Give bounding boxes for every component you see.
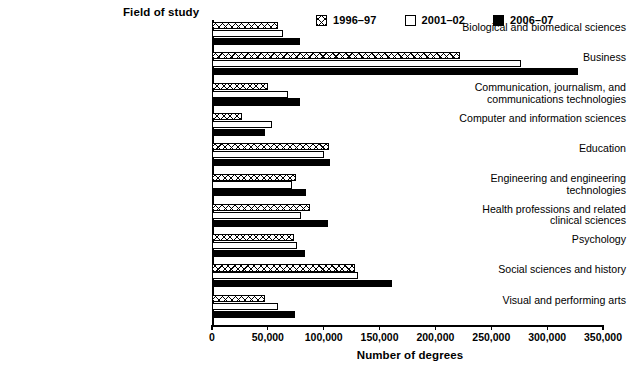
bar-4-1[interactable]: [212, 151, 324, 158]
bar-7-0[interactable]: [212, 234, 294, 241]
category-label-2: Communication, journalism, and communica…: [424, 82, 632, 105]
x-tick-6: [547, 325, 548, 330]
bar-3-2[interactable]: [212, 129, 265, 136]
x-tick-0: [211, 325, 212, 330]
bar-6-1[interactable]: [212, 212, 301, 219]
bar-9-1[interactable]: [212, 303, 278, 310]
x-tick-label-0: 0: [209, 331, 215, 343]
bar-3-0[interactable]: [212, 113, 242, 120]
x-tick-label-4: 200,000: [416, 331, 454, 343]
bar-5-0[interactable]: [212, 174, 296, 181]
bar-8-0[interactable]: [212, 264, 355, 271]
category-label-9: Visual and performing arts: [424, 295, 632, 307]
bar-9-0[interactable]: [212, 295, 265, 302]
bar-7-2[interactable]: [212, 250, 305, 257]
bar-5-1[interactable]: [212, 181, 292, 188]
bar-4-0[interactable]: [212, 143, 329, 150]
bar-4-2[interactable]: [212, 159, 330, 166]
x-tick-label-6: 300,000: [528, 331, 566, 343]
bar-1-1[interactable]: [212, 60, 521, 67]
y-axis-title: Field of study: [123, 6, 199, 18]
category-label-8: Social sciences and history: [424, 264, 632, 276]
category-label-0: Biological and biomedical sciences: [424, 22, 632, 34]
bar-0-2[interactable]: [212, 38, 300, 45]
legend-item-1996-97[interactable]: 1996–97: [316, 14, 377, 26]
bar-6-2[interactable]: [212, 220, 328, 227]
legend-swatch-crosshatch-icon: [316, 15, 327, 26]
bar-0-1[interactable]: [212, 30, 283, 37]
x-tick-label-1: 50,000: [252, 331, 284, 343]
category-label-5: Engineering and engineering technologies: [424, 173, 632, 196]
x-axis-line: [212, 325, 604, 327]
bar-3-1[interactable]: [212, 121, 272, 128]
bar-2-2[interactable]: [212, 98, 300, 105]
bar-1-0[interactable]: [212, 52, 460, 59]
x-tick-3: [379, 325, 380, 330]
x-tick-7: [602, 325, 603, 330]
x-tick-label-5: 250,000: [472, 331, 510, 343]
legend-label-1996-97: 1996–97: [333, 14, 377, 26]
category-label-4: Education: [424, 143, 632, 155]
category-label-6: Health professions and related clinical …: [424, 204, 632, 227]
bar-8-2[interactable]: [212, 280, 392, 287]
bar-1-2[interactable]: [212, 68, 578, 75]
category-label-7: Psychology: [424, 234, 632, 246]
category-label-3: Computer and information sciences: [424, 113, 632, 125]
x-tick-label-7: 350,000: [584, 331, 622, 343]
bar-8-1[interactable]: [212, 272, 358, 279]
bar-6-0[interactable]: [212, 204, 310, 211]
bar-7-1[interactable]: [212, 242, 297, 249]
x-axis-title-text: Number of degrees: [357, 349, 464, 361]
x-tick-2: [323, 325, 324, 330]
legend-swatch-white-icon: [405, 15, 416, 26]
bar-2-1[interactable]: [212, 91, 288, 98]
bar-5-2[interactable]: [212, 189, 306, 196]
x-tick-4: [435, 325, 436, 330]
x-tick-label-2: 100,000: [305, 331, 343, 343]
bar-9-2[interactable]: [212, 311, 295, 318]
bar-2-0[interactable]: [212, 83, 268, 90]
chart-container: Field of study 1996–97 2001–02 2006–07 0…: [0, 0, 632, 368]
x-tick-label-3: 150,000: [361, 331, 399, 343]
x-tick-5: [491, 325, 492, 330]
x-axis-title: Number of degrees: [0, 349, 632, 361]
bar-0-0[interactable]: [212, 22, 278, 29]
x-tick-1: [267, 325, 268, 330]
